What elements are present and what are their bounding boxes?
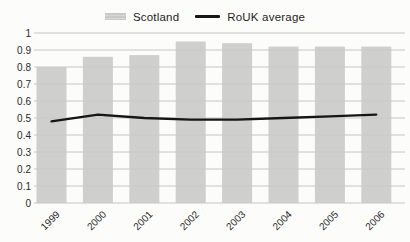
bar-scotland-1999: [37, 67, 67, 203]
legend: Scotland RoUK average: [0, 9, 410, 24]
x-tick-label-2004: 2004: [270, 208, 294, 232]
bar-scotland-2000: [83, 57, 113, 203]
x-tick-label-2002: 2002: [178, 208, 202, 232]
legend-item-rouk-average: RoUK average: [195, 11, 305, 23]
y-tick-label-0.9: 0.9: [17, 45, 31, 56]
legend-item-scotland: Scotland: [105, 11, 179, 23]
bar-scotland-2003: [222, 43, 252, 203]
legend-label-rouk-average: RoUK average: [227, 11, 305, 23]
scotland-bar-swatch-icon: [105, 13, 126, 20]
rouk-line-swatch-icon: [195, 15, 220, 18]
y-tick-label-0.3: 0.3: [17, 147, 31, 158]
y-tick-label-0.1: 0.1: [17, 181, 31, 192]
chart-container: 00.10.20.30.40.50.60.70.80.9119992000200…: [0, 0, 410, 242]
bar-scotland-2006: [361, 47, 391, 203]
y-tick-label-0.7: 0.7: [17, 79, 31, 90]
bar-scotland-2004: [269, 47, 299, 203]
x-tick-label-2005: 2005: [317, 208, 341, 232]
y-tick-label-0.6: 0.6: [17, 96, 31, 107]
x-tick-label-2006: 2006: [363, 208, 387, 232]
x-tick-label-2003: 2003: [224, 208, 248, 232]
y-tick-label-0.2: 0.2: [17, 164, 31, 175]
y-tick-label-1: 1: [25, 28, 31, 39]
bar-scotland-2002: [176, 42, 206, 204]
x-tick-label-1999: 1999: [38, 208, 62, 232]
y-tick-label-0.5: 0.5: [17, 113, 31, 124]
bar-scotland-2001: [129, 55, 159, 203]
x-tick-label-2000: 2000: [85, 208, 109, 232]
chart-svg: 00.10.20.30.40.50.60.70.80.9119992000200…: [0, 0, 410, 242]
y-tick-label-0: 0: [25, 198, 31, 209]
bar-scotland-2005: [315, 47, 345, 203]
legend-label-scotland: Scotland: [133, 11, 179, 23]
x-tick-label-2001: 2001: [131, 208, 155, 232]
y-tick-label-0.4: 0.4: [17, 130, 31, 141]
y-tick-label-0.8: 0.8: [17, 62, 31, 73]
